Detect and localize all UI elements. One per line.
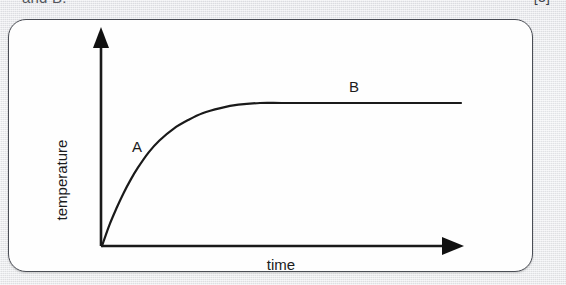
marks-allocation-fragment: [3]	[534, 0, 550, 5]
y-axis-arrow-icon	[93, 27, 109, 48]
scanned-page: and B. [3] temperature time A B	[0, 0, 566, 285]
curve-annotation-b: B	[349, 78, 359, 95]
x-axis-label: time	[267, 256, 295, 272]
figure-panel: temperature time A B	[8, 19, 533, 272]
cut-off-header-row: and B. [3]	[0, 0, 566, 13]
x-axis-arrow-icon	[442, 237, 464, 255]
question-text-fragment: and B.	[22, 0, 67, 6]
data-curve	[102, 103, 461, 246]
y-axis-label: temperature	[53, 140, 70, 221]
curve-annotation-a: A	[132, 138, 142, 155]
temperature-time-graph: temperature time A B	[9, 20, 533, 272]
